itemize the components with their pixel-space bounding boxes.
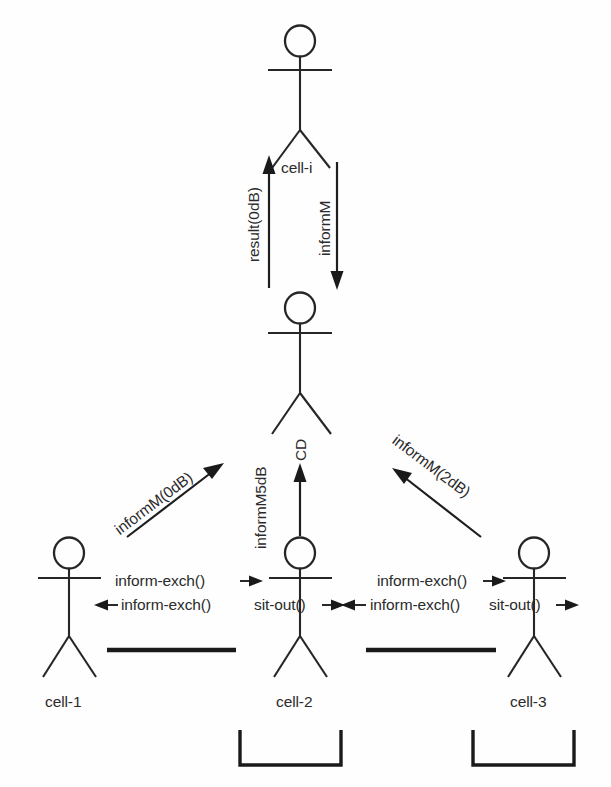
- message-arrow-inform-exch-2-to-3[interactable]: [483, 576, 506, 587]
- message-arrow-inform-exch-2-to-1[interactable]: [94, 600, 118, 611]
- actor-label-cell-i: cell-i: [281, 160, 312, 176]
- message-label-cd: CD: [293, 439, 309, 461]
- diagram-canvas: cell-i result(0dB) informM informM(0dB) …: [0, 0, 611, 787]
- actor-cd-figure[interactable]: [268, 293, 332, 435]
- diagram-graphics: [0, 0, 611, 787]
- message-arrow-informm5db[interactable]: [294, 463, 307, 536]
- bracket-cell-3: [473, 730, 574, 765]
- message-arrow-inform-exch-3-to-2[interactable]: [341, 600, 366, 611]
- bracket-cell-2: [240, 730, 341, 765]
- actor-cell-i-figure[interactable]: [268, 26, 332, 169]
- message-label-sit-out-cell-3: sit-out(): [489, 597, 541, 613]
- message-label-inform-exch-2-to-1: inform-exch(): [121, 597, 211, 613]
- message-label-sit-out-cell-2: sit-out(): [254, 597, 306, 613]
- actor-label-cell-1: cell-1: [45, 694, 81, 710]
- message-arrow-inform-exch-1-to-2[interactable]: [240, 576, 263, 587]
- message-arrow-sit-out-cell-3[interactable]: [556, 600, 579, 611]
- message-arrow-result-0db[interactable]: [263, 155, 276, 288]
- actor-label-cell-3: cell-3: [510, 694, 546, 710]
- message-label-inform-exch-3-to-2: inform-exch(): [370, 597, 460, 613]
- actor-cell-1-figure[interactable]: [38, 538, 101, 678]
- message-label-informm5db: informM5dB: [253, 466, 269, 549]
- message-label-inform-exch-2-to-3: inform-exch(): [377, 573, 467, 589]
- message-label-result-0db: result(0dB): [246, 187, 262, 262]
- message-label-informm: informM: [317, 201, 333, 256]
- message-label-inform-exch-1-to-2: inform-exch(): [115, 573, 205, 589]
- actor-label-cell-2: cell-2: [276, 694, 312, 710]
